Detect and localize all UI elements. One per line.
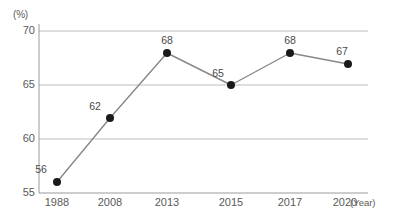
y-tick-label-70: 70 bbox=[8, 24, 35, 36]
x-tick-label-2017: 2017 bbox=[265, 196, 315, 208]
data-label-2015: 65 bbox=[203, 67, 233, 79]
data-point-2020 bbox=[344, 60, 352, 68]
data-point-2017 bbox=[286, 49, 294, 57]
data-label-2013: 68 bbox=[152, 34, 182, 46]
gridlines bbox=[39, 31, 368, 139]
y-tick-label-65: 65 bbox=[8, 78, 35, 90]
data-label-2020: 67 bbox=[327, 45, 357, 57]
x-tick-label-2015: 2015 bbox=[206, 196, 256, 208]
x-axis-unit-label: (Year) bbox=[350, 197, 376, 208]
x-tick-label-2013: 2013 bbox=[142, 196, 192, 208]
data-point-2015 bbox=[227, 81, 235, 89]
data-label-2017: 68 bbox=[275, 34, 305, 46]
line-chart: (%) 70 65 60 55 1988 2008 2013 2015 2017… bbox=[0, 0, 393, 213]
y-tick-label-60: 60 bbox=[8, 132, 35, 144]
data-point-2008 bbox=[106, 114, 114, 122]
x-tick-label-2008: 2008 bbox=[85, 196, 135, 208]
data-label-1988: 56 bbox=[26, 163, 56, 175]
x-tick-label-1988: 1988 bbox=[32, 196, 82, 208]
y-tick-label-55: 55 bbox=[8, 186, 35, 198]
data-point-2013 bbox=[163, 49, 171, 57]
data-label-2008: 62 bbox=[80, 100, 110, 112]
data-point-1988 bbox=[53, 178, 61, 186]
y-axis-unit-label: (%) bbox=[13, 9, 28, 20]
chart-plot-area bbox=[0, 0, 393, 213]
